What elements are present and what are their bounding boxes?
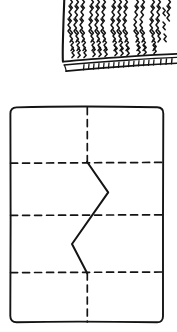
ruler-tick — [89, 64, 90, 69]
ruler-tick — [114, 63, 115, 68]
ruler-tick — [166, 59, 167, 64]
ruler-tick — [129, 61, 130, 66]
squiggle-mark — [163, 22, 165, 30]
ruler-tick — [149, 60, 150, 65]
ruler-tick — [109, 63, 110, 68]
ruler-tick — [139, 61, 140, 66]
sketch-canvas: Hand-drawn sketch: annotated page and fo… — [0, 0, 177, 332]
ruler-tick — [94, 64, 95, 69]
ruler-tick — [161, 59, 162, 64]
ruler-tick — [119, 62, 120, 67]
ruler-tick — [134, 61, 135, 66]
squiggle-mark — [164, 34, 166, 42]
ruler-tick — [104, 63, 105, 68]
ruler-tick — [99, 64, 100, 69]
ruler-tick — [172, 59, 173, 64]
canvas-background — [0, 0, 177, 332]
ruler-tick — [84, 65, 85, 70]
squiggle-mark — [163, 8, 165, 16]
ruler-tick — [154, 60, 155, 65]
ruler-tick — [144, 60, 145, 65]
ruler-tick — [124, 62, 125, 67]
sketch-illustration — [0, 0, 177, 332]
